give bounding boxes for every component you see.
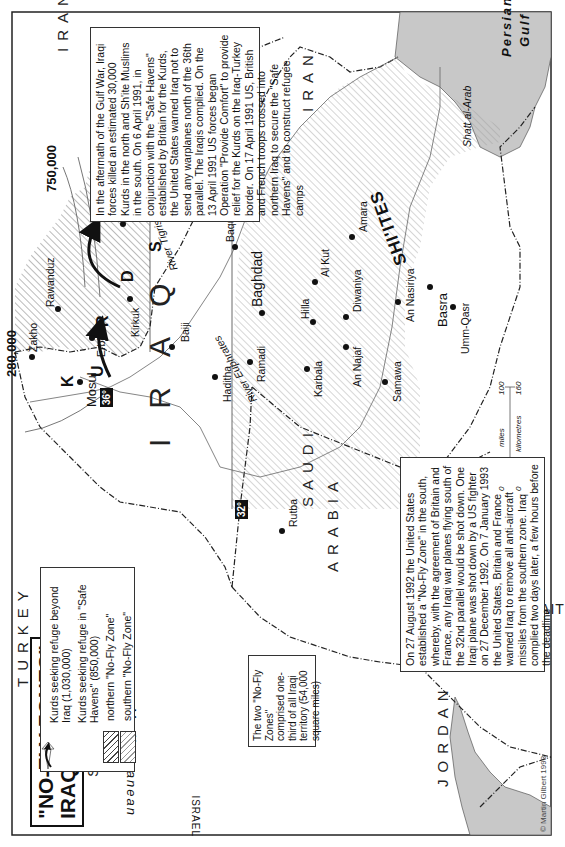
note-north: In the aftermath of the Gulf War, Iraqi … — [90, 27, 260, 222]
credit: © Martin Gilbert 1993 — [540, 756, 548, 832]
parallel-36-label: 36° — [100, 388, 113, 407]
label-saudi: SAUDI — [300, 426, 315, 507]
hatch-dark-icon — [103, 731, 119, 763]
city-baiji: Baiji — [180, 322, 191, 342]
city-ramadi: Ramadi — [256, 346, 267, 382]
label-jordan: JORDAN — [435, 683, 450, 787]
count-turkey: 280,000 — [5, 330, 18, 377]
label-shatt-al-arab: Shatt al-Arab — [462, 86, 473, 147]
scale-km-min: 0 — [515, 487, 523, 491]
city-rawanduz: Rawanduz — [45, 257, 56, 307]
label-iran-north: IRAN — [55, 0, 70, 52]
label-gulf: Gulf — [518, 13, 531, 47]
city-an-nasiriya: An Nasiriya — [405, 268, 416, 322]
open-arrow-icon — [53, 733, 67, 763]
city-karbala: Karbala — [313, 361, 324, 397]
city-rutba: Rutba — [288, 499, 299, 527]
city-an-najaf: An Najaf — [352, 347, 363, 387]
city-baghdad: Baghdad — [250, 251, 264, 307]
legend-item-black-arrow: Kurds seeking refuge in "Safe Havens" (8… — [74, 576, 102, 763]
city-mosul: Mosul — [85, 372, 98, 407]
note-south: On 27 August 1992 the United States esta… — [400, 457, 545, 672]
legend-item-southern-zone: southern "No-Fly Zone" — [119, 576, 136, 763]
city-hilla: Hilla — [300, 299, 311, 319]
scale-miles-min: 0 — [498, 487, 506, 491]
label-iran-south: IRAN — [300, 48, 315, 112]
legend-item-northern-zone: northern "No-Fly Zone" — [102, 576, 119, 763]
city-umm-qasr: Umm-Qasr — [460, 303, 471, 354]
city-amara: Amara — [358, 201, 369, 232]
label-kurds-r: R — [95, 315, 111, 327]
black-arrow-icon — [81, 733, 95, 763]
city-erbil: Erbil — [96, 336, 107, 357]
note-territory: The two "No-Fly Zones" comprised one-thi… — [248, 655, 316, 747]
city-diwaniya: Diwaniya — [352, 269, 363, 312]
mediterranean-sea — [450, 697, 551, 835]
label-kurds-k: K — [60, 375, 76, 387]
count-iran: 750,000 — [45, 145, 58, 192]
label-arabia: ARABIA — [325, 475, 340, 572]
hatch-light-icon — [120, 731, 136, 763]
legend-label-northern: northern "No-Fly Zone" — [104, 614, 116, 721]
city-basra: Basra — [436, 293, 449, 327]
scale-km-label: kilometres — [515, 416, 523, 452]
parallel-32-label: 32° — [235, 500, 248, 519]
scale-km-max: 160 — [515, 382, 523, 395]
label-israel: ISRAEL — [190, 795, 200, 837]
label-persian: Persian — [500, 0, 513, 57]
label-iraq: IRAQ — [145, 254, 175, 447]
city-zakho: Zakho — [28, 323, 39, 352]
city-kirkuk: Kirkuk — [130, 308, 141, 337]
legend: Kurds seeking refuge beyond Iraq (1,030,… — [40, 567, 135, 772]
scale-miles-max: 100 — [498, 382, 506, 395]
city-samawa: Samawa — [392, 361, 403, 402]
legend-label-southern: southern "No-Fly Zone" — [121, 612, 133, 721]
label-turkey: TURKEY — [15, 584, 30, 687]
legend-item-open-arrow: Kurds seeking refuge beyond Iraq (1,030,… — [46, 576, 74, 763]
legend-label-black-arrow: Kurds seeking refuge in "Safe Havens" (8… — [76, 576, 101, 723]
legend-label-open-arrow: Kurds seeking refuge beyond Iraq (1,030,… — [48, 576, 73, 723]
label-kurds-d: D — [120, 270, 136, 282]
scale-miles-label: miles — [498, 428, 506, 447]
city-al-kut: Al Kut — [320, 249, 331, 277]
